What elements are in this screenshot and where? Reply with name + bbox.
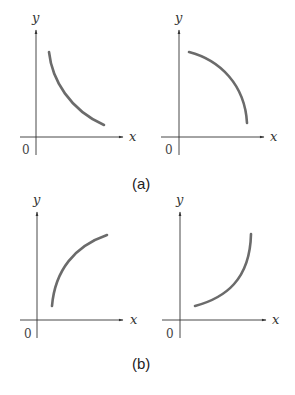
- graph-a-right: y x 0: [161, 10, 278, 157]
- graph-b-left: y x 0: [20, 192, 138, 341]
- origin-label: 0: [166, 327, 174, 341]
- caption-a: (a): [132, 175, 150, 192]
- curve-increasing-concave-up: [195, 234, 251, 306]
- curve-increasing-concave-down: [52, 235, 107, 306]
- curve-decreasing-concave-up: [49, 52, 104, 125]
- x-label: x: [272, 312, 280, 327]
- curve-decreasing-concave-down: [189, 52, 247, 123]
- caption-b: (b): [132, 355, 150, 372]
- x-label: x: [130, 312, 138, 327]
- y-label: y: [32, 192, 41, 207]
- figure-canvas: y x 0 y x 0 y x 0 y x 0: [0, 0, 295, 395]
- origin-label: 0: [22, 143, 30, 157]
- x-label: x: [270, 129, 278, 144]
- origin-label: 0: [24, 327, 32, 341]
- y-label: y: [175, 192, 184, 207]
- x-label: x: [129, 129, 137, 144]
- graph-b-right: y x 0: [162, 192, 280, 341]
- origin-label: 0: [165, 143, 173, 157]
- y-label: y: [31, 10, 40, 25]
- graph-a-left: y x 0: [20, 10, 137, 157]
- y-label: y: [174, 10, 183, 25]
